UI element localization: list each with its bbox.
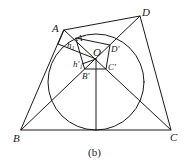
label-h1: h1 [67,40,75,51]
label-o: O [93,46,101,58]
label-a: A [51,22,59,34]
label-d-prime: D′ [110,44,120,54]
label-c-prime: C′ [108,62,117,72]
segment-ab-foot [58,30,64,44]
label-a-prime: A′ [76,33,85,43]
figure-caption: (b) [88,146,101,159]
label-d: D [141,6,150,18]
label-b: B [13,132,20,144]
label-h1-sub: 1 [72,45,75,51]
label-h1-prime: h′1 [73,59,82,70]
label-c: C [170,131,178,143]
geometry-figure: A D B C O A′ D′ C′ B′ h1 h′1 (b) [0,0,188,168]
height-h1-prime-line [82,59,96,64]
label-b-prime: B′ [82,71,90,81]
perpendicular-to-ab [58,44,96,59]
label-h1-prime-sub: 1 [79,64,82,70]
